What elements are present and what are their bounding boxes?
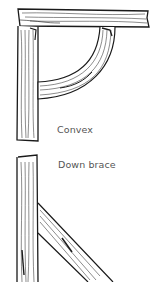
brace-illustration [0,0,167,282]
label-down-brace: Down brace [58,159,116,170]
down-brace-drawing [17,155,113,282]
label-convex: Convex [57,124,93,135]
convex-brace-drawing [17,9,149,141]
